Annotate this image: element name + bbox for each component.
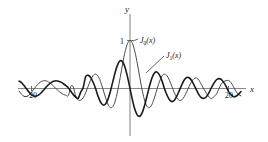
bessel-functions-figure: y x 1 – 20 20 J0(x) J1(x) bbox=[0, 0, 268, 142]
svg-text:J0(x): J0(x) bbox=[140, 36, 156, 46]
plot-canvas: y x 1 – 20 20 J0(x) J1(x) bbox=[0, 0, 268, 142]
j0-leader-line bbox=[133, 39, 138, 41]
j1-label-arg: (x) bbox=[172, 51, 181, 60]
curve-label-j1: J1(x) bbox=[166, 51, 182, 61]
curve-label-j0: J0(x) bbox=[140, 36, 156, 46]
x-axis-label: x bbox=[249, 84, 254, 94]
j1-leader-line bbox=[146, 56, 164, 73]
x-tick-label-minus20-group: – 20 bbox=[23, 91, 37, 100]
j0-label-arg: (x) bbox=[146, 36, 155, 45]
x-tick-label-minus20: 20 bbox=[29, 91, 37, 100]
svg-text:J1(x): J1(x) bbox=[166, 51, 182, 61]
y-tick-label-1: 1 bbox=[120, 37, 124, 46]
x-tick-label-20: 20 bbox=[225, 91, 233, 100]
y-axis-label: y bbox=[124, 4, 129, 14]
